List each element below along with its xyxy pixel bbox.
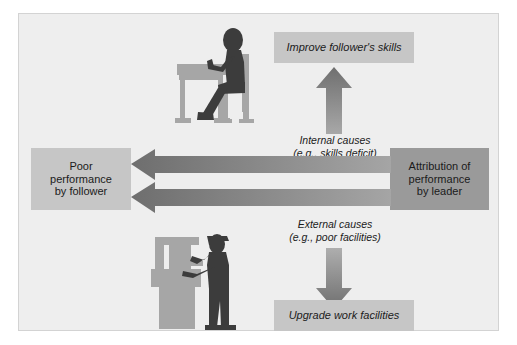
attribution-box: Attribution of performance by leader xyxy=(390,148,489,210)
improve-skills-label: Improve follower's skills xyxy=(286,41,401,54)
poor-performance-line1: Poor xyxy=(69,160,92,173)
diagram-root: Improve follower's skills Internal cause… xyxy=(0,0,517,345)
diagram-frame: Improve follower's skills Internal cause… xyxy=(18,13,499,331)
poor-performance-line3: by follower xyxy=(55,185,108,198)
seated-worker-at-desk-illustration xyxy=(171,28,281,132)
external-causes-line1: External causes xyxy=(265,218,405,231)
attribution-line2: performance xyxy=(409,173,471,186)
poor-performance-box: Poor performance by follower xyxy=(31,148,131,210)
attribution-line1: Attribution of xyxy=(409,160,471,173)
improve-skills-box: Improve follower's skills xyxy=(274,32,414,63)
lower-feedback-left-arrow xyxy=(131,181,391,212)
upper-feedback-left-arrow xyxy=(131,149,391,180)
poor-performance-line2: performance xyxy=(50,173,112,186)
attribution-line3: by leader xyxy=(417,185,462,198)
upgrade-facilities-label: Upgrade work facilities xyxy=(289,309,400,322)
internal-causes-up-arrow xyxy=(312,67,356,134)
upgrade-facilities-box: Upgrade work facilities xyxy=(274,300,414,331)
external-causes-annotation: External causes (e.g., poor facilities) xyxy=(265,218,405,244)
external-causes-line2: (e.g., poor facilities) xyxy=(265,231,405,244)
internal-causes-line1: Internal causes xyxy=(265,134,405,147)
standing-worker-at-machine-illustration xyxy=(147,231,247,331)
